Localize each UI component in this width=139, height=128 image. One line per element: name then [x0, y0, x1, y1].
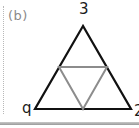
- vertex-label-bottom-right: 2: [134, 104, 139, 119]
- triangle-diagram: [0, 0, 139, 128]
- inner-medial-triangle: [59, 67, 107, 109]
- vertex-label-bottom-left: q: [22, 101, 32, 116]
- bottom-divider: [0, 122, 139, 125]
- vertex-label-top: 3: [79, 2, 89, 17]
